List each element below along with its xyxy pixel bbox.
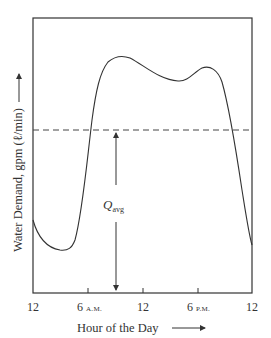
x-tick-label-0: 12 xyxy=(27,300,39,314)
y-axis-title: Water Demand, gpm (ℓ/min) xyxy=(11,108,25,252)
water-demand-chart: Qavg 12 6A.M. 12 6P.M. 12 Hour of the Da… xyxy=(0,0,271,338)
x-axis-title: Hour of the Day xyxy=(77,321,159,335)
x-tick-label-4: 12 xyxy=(246,300,258,314)
x-tick-labels: 12 6A.M. 12 6P.M. 12 xyxy=(27,300,258,314)
plot-frame xyxy=(33,18,252,293)
svg-text:12: 12 xyxy=(27,300,39,314)
x-axis-ticks xyxy=(88,288,198,293)
svg-text:6A.M.: 6A.M. xyxy=(77,300,102,314)
svg-text:6P.M.: 6P.M. xyxy=(187,300,210,314)
x-tick-label-1: 6 xyxy=(77,300,83,314)
x-tick-label-3: 6 xyxy=(187,300,193,314)
x-tick-label-2: 12 xyxy=(137,300,149,314)
q-avg-label: Qavg xyxy=(103,197,124,214)
svg-text:12: 12 xyxy=(137,300,149,314)
svg-text:12: 12 xyxy=(246,300,258,314)
demand-curve xyxy=(33,56,252,250)
